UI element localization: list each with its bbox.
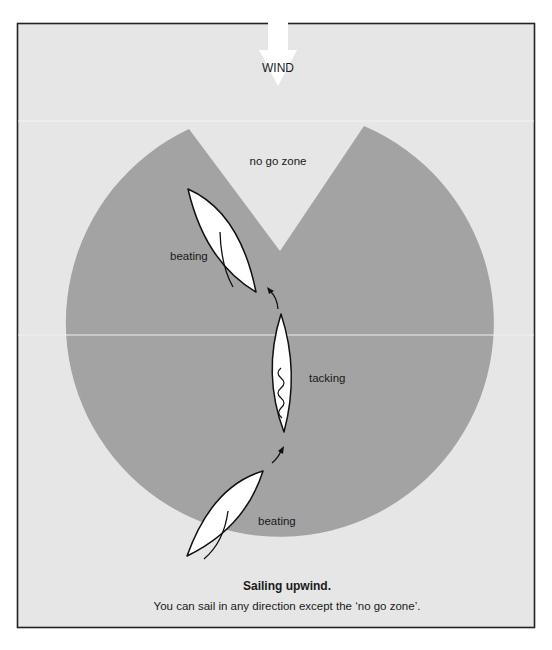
sailing-upwind-diagram: WIND no go zone beating tacking beating … <box>0 0 552 650</box>
wind-label: WIND <box>262 61 294 75</box>
caption-text: You can sail in any direction except the… <box>154 600 421 612</box>
no-go-zone-label: no go zone <box>250 155 307 167</box>
boat-upper-label: beating <box>170 250 208 262</box>
boat-middle-label: tacking <box>309 372 345 384</box>
boat-lower-label: beating <box>258 515 296 527</box>
caption-title: Sailing upwind. <box>243 579 331 593</box>
